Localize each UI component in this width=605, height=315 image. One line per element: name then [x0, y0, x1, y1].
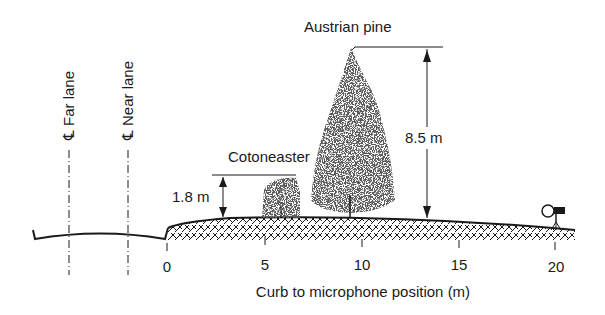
- microphone-icon: [542, 205, 565, 230]
- tick-label: 10: [354, 256, 371, 273]
- ground-embankment: [168, 217, 575, 240]
- arrow-up-icon: [423, 50, 431, 62]
- near-lane-label: ℄Near lane: [119, 61, 136, 141]
- pine-height-label: 8.5 m: [405, 129, 443, 146]
- cotoneaster-label: Cotoneaster: [228, 148, 310, 165]
- far-lane-centerline: ℄Far lane: [60, 71, 77, 275]
- austrian-pine-tree: [311, 48, 395, 218]
- tick-label: 20: [548, 258, 565, 275]
- axis-title: Curb to microphone position (m): [256, 283, 470, 300]
- roadside-cross-section-diagram: ℄Far lane ℄Near lane Cotoneaster 1.8 m 8…: [0, 0, 605, 315]
- arrow-down-icon: [423, 206, 431, 218]
- near-lane-centerline: ℄Near lane: [119, 61, 136, 275]
- cotoneaster-height-label: 1.8 m: [172, 188, 210, 205]
- road-surface: [33, 228, 168, 239]
- tick-label: 0: [163, 258, 171, 275]
- tick-label: 15: [451, 256, 468, 273]
- distance-axis: 0 5 10 15 20 Curb to microphone position…: [163, 237, 565, 300]
- cotoneaster-shrub: [262, 178, 300, 218]
- arrow-up-icon: [219, 177, 227, 187]
- pine-label: Austrian pine: [304, 18, 392, 35]
- far-lane-label: ℄Far lane: [60, 71, 77, 141]
- arrow-down-icon: [219, 207, 227, 217]
- tick-label: 5: [261, 256, 269, 273]
